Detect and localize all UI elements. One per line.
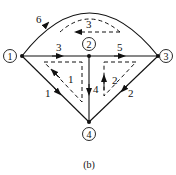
node-3: 3 [160, 50, 173, 63]
svg-text:4: 4 [87, 129, 92, 140]
edge-1-label: 1 [45, 87, 51, 99]
svg-text:3: 3 [164, 51, 169, 62]
circuit-graph: 6 3 3 5 1 2 4 1 2 1 2 3 4 [0, 0, 176, 175]
edge-5-label: 5 [117, 41, 123, 53]
loop-2-label: 2 [112, 74, 118, 86]
loop-1-label: 1 [68, 73, 74, 85]
edge-2-label: 2 [128, 87, 134, 99]
node-2: 2 [83, 38, 96, 51]
node-1: 1 [4, 50, 17, 63]
loop-3-label: 3 [86, 18, 92, 30]
svg-text:1: 1 [8, 51, 13, 62]
edge-3-label: 3 [56, 41, 62, 53]
figure-caption: (b) [83, 159, 95, 171]
edge-6-label: 6 [36, 13, 42, 25]
edge-4-label: 4 [93, 83, 99, 95]
edge-6-arrow [44, 23, 48, 27]
svg-text:2: 2 [87, 39, 92, 50]
node-4: 4 [83, 128, 96, 141]
